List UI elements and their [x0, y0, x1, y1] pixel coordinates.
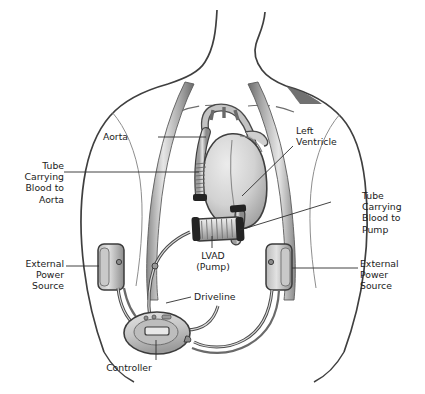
- label-lvad-pump: LVAD (Pump): [182, 250, 244, 272]
- controller-unit: [124, 312, 191, 354]
- pump-group: [191, 217, 244, 241]
- battery-right: [266, 244, 292, 290]
- inflow-cannula-cuff: [230, 204, 246, 212]
- battery-right-face: [281, 248, 290, 286]
- waist-right: [314, 352, 344, 382]
- battery-left-face: [100, 248, 109, 286]
- label-left-ventricle: Left Ventricle: [296, 125, 366, 147]
- label-driveline: Driveline: [194, 291, 254, 302]
- neck-outline-right: [255, 12, 286, 86]
- label-tube-carrying-blood-to-aorta: Tube Carrying Blood to Aorta: [2, 160, 64, 205]
- leader-driveline: [166, 297, 191, 303]
- battery-right-port: [268, 259, 273, 264]
- pump-body: [193, 217, 242, 241]
- shoulder-shadow: [286, 86, 322, 104]
- outflow-graft-cuff: [193, 194, 207, 201]
- label-external-power-source-right: External Power Source: [360, 258, 422, 292]
- controller-display: [145, 327, 169, 335]
- driveline-exit-site: [152, 263, 158, 269]
- label-external-power-source-left: External Power Source: [2, 258, 64, 292]
- lvad-diagram: Aorta Left Ventricle Tube Carrying Blood…: [0, 0, 425, 394]
- collarbone-right: [248, 105, 294, 112]
- label-controller: Controller: [98, 362, 160, 373]
- battery-left-port: [116, 259, 121, 264]
- label-aorta: Aorta: [62, 131, 128, 142]
- neck-outline: [168, 10, 217, 84]
- branch-vessel-1: [211, 110, 213, 120]
- label-tube-carrying-blood-to-pump: Tube Carrying Blood to Pump: [362, 190, 424, 235]
- pump-band-left: [191, 217, 200, 241]
- battery-left: [98, 244, 124, 290]
